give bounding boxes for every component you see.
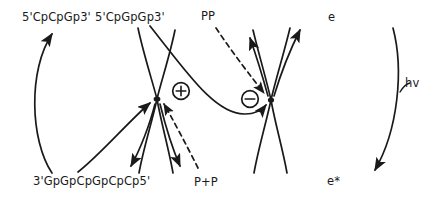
arc-hv-electron-to-excited (375, 28, 398, 170)
curve-left-crossing-upper-left (138, 28, 157, 99)
curve-right-crossing-lower-left (254, 100, 271, 173)
arrow-bottomleft-to-plus (78, 103, 150, 172)
label-electron: e (328, 11, 335, 24)
curve-right-crossing-lower-right (271, 100, 287, 173)
curve-left-crossing-lower-right (157, 99, 173, 173)
right-crossing-dot (268, 97, 274, 102)
label-photon-hv: hv (405, 77, 419, 90)
arc-left-bottom-to-topleft (35, 34, 52, 173)
charge-markers (173, 83, 259, 108)
left-crossing-dot (154, 96, 161, 101)
curve-right-crossing-upper-right (271, 28, 290, 100)
label-bottom-left-sequence: 3'GpGpCpGpCpCp5' (33, 175, 150, 188)
label-top-mid-sequence: 5'CpGpGp3' (95, 11, 165, 24)
label-pp: PP (201, 10, 215, 23)
diagram-canvas: 5'CpCpGp3' 5'CpGpGp3' PP e hv 3'GpGpCpGp… (0, 0, 445, 207)
label-top-left-sequence: 5'CpCpGp3' (22, 11, 91, 24)
label-p-plus-p: P+P (194, 176, 218, 189)
label-electron-excited: e* (327, 175, 340, 188)
